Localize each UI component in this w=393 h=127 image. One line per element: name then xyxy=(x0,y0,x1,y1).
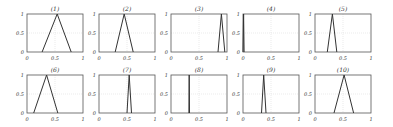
y-tick-label: 1 xyxy=(93,72,96,78)
x-tick-label: 1 xyxy=(225,55,228,61)
subplot-title: (8) xyxy=(195,66,204,73)
subplot-2: (2)00.5100.51 xyxy=(88,5,157,61)
y-tick-label: 1 xyxy=(237,72,240,78)
y-tick-label: 0.5 xyxy=(304,91,312,97)
y-tick-label: 0.5 xyxy=(88,91,96,97)
y-tick-label: 1 xyxy=(165,11,168,17)
subplot-10: (10)00.5100.51 xyxy=(304,66,373,122)
subplot-title: (6) xyxy=(51,66,60,73)
subplot-3: (3)00.5100.51 xyxy=(160,5,229,61)
y-tick-label: 0 xyxy=(237,110,241,116)
x-tick-label: 1 xyxy=(81,55,84,61)
subplot-title: (2) xyxy=(123,5,132,12)
subplot-6: (6)00.5100.51 xyxy=(16,66,85,122)
subplot-1: (1)00.5100.51 xyxy=(16,5,85,61)
x-tick-label: 1 xyxy=(297,55,300,61)
x-tick-label: 0 xyxy=(169,55,173,61)
subplot-7: (7)00.5100.51 xyxy=(88,66,157,122)
chart-grid: (1)00.5100.51(2)00.5100.51(3)00.5100.51(… xyxy=(0,0,393,127)
x-tick-label: 0.5 xyxy=(51,116,59,122)
subplot-title: (9) xyxy=(267,66,276,73)
y-tick-label: 0 xyxy=(165,110,169,116)
x-tick-label: 0 xyxy=(241,116,245,122)
subplot-title: (3) xyxy=(195,5,204,12)
subplot-4: (4)00.5100.51 xyxy=(232,5,301,61)
y-tick-label: 0 xyxy=(93,110,97,116)
x-tick-label: 0 xyxy=(97,116,101,122)
x-tick-label: 0.5 xyxy=(123,55,131,61)
triangle-membership-line xyxy=(42,14,71,52)
x-tick-label: 1 xyxy=(153,55,156,61)
y-tick-label: 0.5 xyxy=(160,30,168,36)
x-tick-label: 0 xyxy=(25,116,29,122)
y-tick-label: 0 xyxy=(309,49,313,55)
y-tick-label: 1 xyxy=(21,72,24,78)
y-tick-label: 1 xyxy=(309,11,312,17)
x-tick-label: 1 xyxy=(369,116,372,122)
x-tick-label: 0 xyxy=(97,55,101,61)
y-tick-label: 0.5 xyxy=(232,30,240,36)
y-tick-label: 1 xyxy=(309,72,312,78)
x-tick-label: 0.5 xyxy=(51,55,59,61)
y-tick-label: 0 xyxy=(309,110,313,116)
y-tick-label: 0 xyxy=(165,49,169,55)
triangle-membership-line xyxy=(243,14,244,52)
y-tick-label: 0.5 xyxy=(160,91,168,97)
x-tick-label: 0.5 xyxy=(267,55,275,61)
x-tick-label: 0 xyxy=(169,116,173,122)
x-tick-label: 0.5 xyxy=(123,116,131,122)
x-tick-label: 0 xyxy=(25,55,29,61)
x-tick-label: 0 xyxy=(313,116,317,122)
y-tick-label: 0.5 xyxy=(16,91,24,97)
y-tick-label: 0.5 xyxy=(232,91,240,97)
y-tick-label: 0.5 xyxy=(304,30,312,36)
subplot-title: (7) xyxy=(123,66,132,73)
x-tick-label: 1 xyxy=(297,116,300,122)
x-tick-label: 0 xyxy=(241,55,245,61)
y-tick-label: 0.5 xyxy=(88,30,96,36)
y-tick-label: 1 xyxy=(21,11,24,17)
x-tick-label: 1 xyxy=(225,116,228,122)
subplot-title: (10) xyxy=(337,66,350,73)
subplot-title: (1) xyxy=(51,5,60,12)
x-tick-label: 1 xyxy=(153,116,156,122)
x-tick-label: 0.5 xyxy=(339,55,347,61)
subplot-title: (5) xyxy=(339,5,348,12)
y-tick-label: 0.5 xyxy=(16,30,24,36)
y-tick-label: 0 xyxy=(237,49,241,55)
y-tick-label: 1 xyxy=(165,72,168,78)
subplot-5: (5)00.5100.51 xyxy=(304,5,373,61)
x-tick-label: 0.5 xyxy=(339,116,347,122)
x-tick-label: 0.5 xyxy=(195,55,203,61)
y-tick-label: 0 xyxy=(21,49,25,55)
x-tick-label: 0.5 xyxy=(195,116,203,122)
triangle-membership-line xyxy=(189,75,190,113)
x-tick-label: 1 xyxy=(81,116,84,122)
x-tick-label: 0 xyxy=(313,55,317,61)
subplot-8: (8)00.5100.51 xyxy=(160,66,229,122)
y-tick-label: 1 xyxy=(93,11,96,17)
y-tick-label: 0 xyxy=(93,49,97,55)
y-tick-label: 0 xyxy=(21,110,25,116)
subplot-9: (9)00.5100.51 xyxy=(232,66,301,122)
x-tick-label: 1 xyxy=(369,55,372,61)
subplot-title: (4) xyxy=(267,5,276,12)
y-tick-label: 1 xyxy=(237,11,240,17)
x-tick-label: 0.5 xyxy=(267,116,275,122)
